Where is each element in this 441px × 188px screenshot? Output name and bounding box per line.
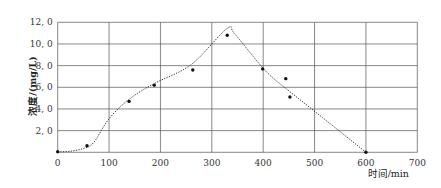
x-tick-label: 300: [203, 158, 220, 168]
x-axis-label: 时间/min: [368, 168, 409, 179]
x-tick-label: 0: [55, 158, 61, 168]
data-point: [191, 68, 194, 71]
y-tick-label: 4, 0: [36, 104, 53, 114]
x-axis-ticks: 0100200300400500600700: [55, 158, 426, 168]
x-tick-label: 600: [357, 158, 374, 168]
y-tick-label: 8, 0: [36, 61, 53, 71]
concentration-time-chart: 2, 04, 06, 08, 010, 012, 0 0100200300400…: [0, 0, 441, 188]
data-point: [364, 151, 367, 154]
data-point: [56, 150, 59, 153]
y-tick-label: 2, 0: [36, 126, 53, 136]
data-point: [85, 144, 88, 147]
y-tick-label: 10, 0: [30, 39, 53, 49]
x-tick-label: 200: [152, 158, 169, 168]
data-point: [153, 83, 156, 86]
data-point: [284, 77, 287, 80]
data-point: [127, 100, 130, 103]
data-point: [226, 34, 229, 37]
x-tick-label: 100: [100, 158, 117, 168]
y-tick-label: 6, 0: [36, 82, 53, 92]
x-tick-label: 700: [409, 158, 426, 168]
x-tick-label: 400: [255, 158, 272, 168]
data-point: [261, 67, 264, 70]
y-tick-label: 12, 0: [30, 17, 53, 27]
data-point: [288, 95, 291, 98]
grid-lines: [58, 22, 418, 152]
x-tick-label: 500: [306, 158, 323, 168]
y-axis-label: 浓度/(mg/L): [27, 56, 38, 115]
